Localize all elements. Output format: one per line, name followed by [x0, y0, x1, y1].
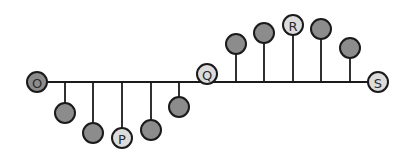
particle-r: R: [283, 15, 303, 35]
ball-icon: [169, 97, 189, 117]
ball-icon: [254, 23, 274, 43]
point-label: O: [32, 76, 42, 91]
particle: [141, 120, 161, 140]
particle-p: P: [112, 128, 132, 148]
point-label: S: [374, 76, 382, 91]
particle: [169, 97, 189, 117]
particle: [254, 23, 274, 43]
ball-icon: [311, 19, 331, 39]
point-label: P: [118, 132, 126, 147]
particle: [311, 19, 331, 39]
particle-o: O: [27, 72, 47, 92]
ball-icon: [83, 123, 103, 143]
particle: [55, 103, 75, 123]
ball-icon: [141, 120, 161, 140]
particle: [340, 38, 360, 58]
particle: [226, 34, 246, 54]
particle-s: S: [368, 72, 388, 92]
ball-icon: [340, 38, 360, 58]
particle: [83, 123, 103, 143]
ball-icon: [55, 103, 75, 123]
point-label: R: [288, 19, 297, 34]
ball-icon: [226, 34, 246, 54]
point-label: Q: [202, 68, 212, 83]
particle-q: Q: [197, 64, 217, 84]
transverse-wave-diagram: OPQRS: [0, 0, 405, 154]
